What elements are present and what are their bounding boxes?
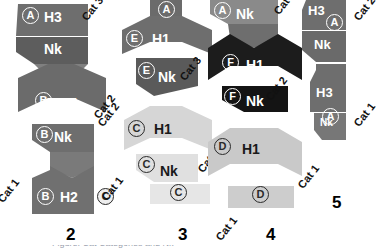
badge-c-col3-bottom: C: [170, 184, 187, 201]
block-nk-shape: [16, 37, 88, 64]
badge-e-col3-nk: E: [138, 62, 155, 79]
block-nk-col5a-shape: [302, 31, 346, 62]
badge-a-col5-top: A: [326, 14, 343, 31]
caption-strip: Figure: Cat Categories and Nk: [0, 245, 383, 252]
block-h1-shape: [18, 64, 106, 112]
badge-b-col2-bottom: B: [37, 188, 54, 205]
column-number-2: 2: [66, 226, 75, 243]
badge-c-col3-nk: C: [138, 156, 155, 173]
badge-d-col4-h1: D: [214, 138, 231, 155]
figure-canvas: H3 Nk H1 A B Cat 3 Cat 2 Cat 1 Nk H2 B B…: [0, 0, 383, 252]
caption-text: Figure: Cat Categories and Nk: [52, 245, 174, 248]
badge-e-col3-h1: E: [126, 30, 143, 47]
badge-b-col2-top: B: [36, 126, 53, 143]
column-2-group: Nk H2 B B C: [26, 122, 116, 222]
badge-f-col4-h1: F: [222, 54, 239, 71]
badge-c-col3-h1: C: [128, 120, 145, 137]
column-1-group: H3 Nk H1 A B: [14, 2, 110, 114]
cat-label-1-col1: Cat 1: [0, 177, 21, 205]
badge-a-col3: A: [158, 1, 175, 18]
badge-a: A: [22, 7, 39, 24]
column-number-3: 3: [178, 226, 187, 243]
column-4-group: A Nk F H1 F Nk: [206, 0, 306, 116]
block-h3-col5b-shape: [310, 64, 346, 112]
badge-d-col4-bottom: D: [252, 186, 269, 203]
column-number-4: 4: [266, 226, 275, 243]
badge-f-col4-nk: F: [224, 88, 241, 105]
column-3-group: A E H1 E Nk: [120, 0, 220, 112]
column-5-group: H3 A Nk H3 A Nk: [300, 0, 360, 166]
badge-a-col4: A: [214, 2, 231, 19]
column-4-group-lower: D H1 D: [206, 124, 306, 224]
badge-a-col5-bottom: A: [322, 108, 339, 125]
column-number-5: 5: [332, 194, 341, 211]
badge-b: B: [35, 92, 52, 109]
